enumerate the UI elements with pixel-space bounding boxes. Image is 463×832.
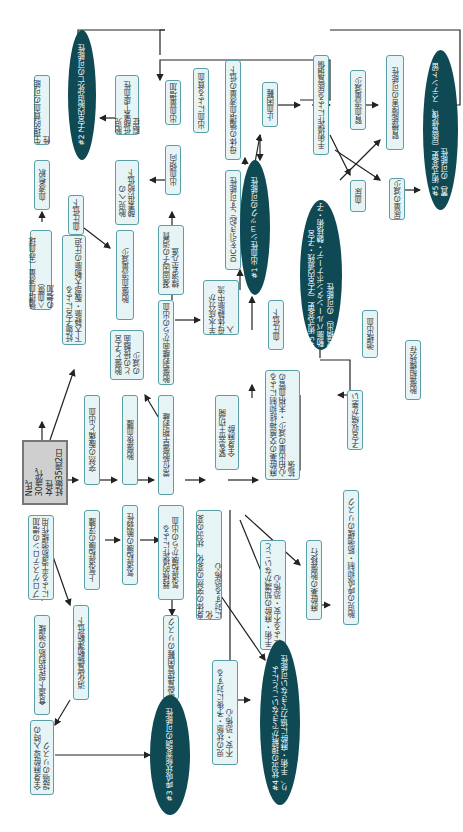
box-bleeding-tendency: 出血傾向 bbox=[165, 145, 181, 195]
patient-info-box: N氏、 30歳代、 女性 妊娠35週2日 bbox=[22, 440, 68, 505]
box-dic-possibility: DICを引き起こす可能性 bbox=[225, 170, 241, 270]
box-blood-loss-increase: 出血量増加 bbox=[165, 80, 181, 125]
box-airway-mucosa-fragility: 気道粘膜の脆弱性 bbox=[122, 505, 138, 585]
box-fetal-oxygen-decrease: 胎児への 酸素供給低下 bbox=[115, 160, 139, 225]
box-mechanical-airway-bleeding: 器械的操作による 気道粘膜からの出血 bbox=[158, 505, 184, 600]
box-fetal-hie: 胎児 低酸素─虚血性脳症 bbox=[115, 75, 139, 135]
box-placental-contact-decrease: 胎盤と子宮 との接触面 の減少 bbox=[110, 330, 144, 380]
box-hypotension-2: 血圧低下 bbox=[268, 300, 284, 350]
box-circulating-blood-volume: 循環血液量（赤血球＜血漿） の増加 bbox=[30, 230, 52, 310]
box-anesthesia-sympathetic-inhibition: 麻酔薬の交感神経抑制による 心拍出量の減少・末梢血管の 拡張 bbox=[265, 370, 300, 480]
box-anemia-from-bleeding: 出血による貧血 bbox=[193, 68, 209, 133]
diagnosis-fetal-death: #2 子宮内胎児死亡の可能性 bbox=[68, 30, 96, 160]
box-retroplacental-hematoma: 胎盤後血腫 bbox=[122, 395, 138, 485]
diagnosis-hemorrhagic-shock: #1 出血性ショックの可能性 bbox=[240, 160, 270, 295]
diagnosis-surgery-change-uterine: #5 術式変更（子宮内遺残・子宮 動脈バルーンタンポナーデ・髄核術・子 宮摘出）… bbox=[300, 200, 342, 350]
diagnosis-respiratory-change: #3 呼吸状態変調の可能性 bbox=[150, 695, 190, 815]
box-anesthesia-placental-transfer: 麻酔薬の胎盤移行 bbox=[306, 540, 322, 620]
box-aspiration-risk: 全身麻酔導入時の 誤嚥のリスク bbox=[30, 720, 54, 795]
box-coagulation-consumption: 凝固因子の消費 線溶系亢進 bbox=[158, 225, 184, 295]
box-atonic-bleeding: 弛緩出血 bbox=[362, 310, 378, 358]
nursing-correlation-diagram: N氏、 30歳代、 女性 妊娠35週2日 循環血液量（赤血球＜血漿） の増加 血… bbox=[0, 0, 463, 832]
box-urine-output-decrease: 尿量の減少 bbox=[389, 178, 405, 220]
box-placental-blood-flow-decrease: 胎盤血流量減少 bbox=[116, 230, 134, 320]
box-hemodilution: 血液希釈 bbox=[34, 160, 50, 210]
box-emergency-cesarean: 緊急帝王切開 全身麻酔 bbox=[215, 395, 239, 470]
box-hypotension-1: 血圧低下 bbox=[68, 195, 84, 235]
box-bleeding-from-placental-surface: 胎盤剥離面からの出血 bbox=[158, 300, 174, 385]
box-physiologic-anemia: 生理的貧血の可能性 bbox=[34, 75, 50, 145]
box-hemostasis-difficulty: 止血困難 bbox=[262, 82, 278, 127]
box-ureter-injury: 手術操作による尿管損傷 bbox=[313, 55, 329, 155]
box-vena-cava-compression: 妊娠子宮による 下大静脈・腹部大動脈の圧迫 bbox=[62, 235, 86, 345]
diagnosis-surgery-change-ureter: #5 術式変更（尿管修復、ステント留 置）の可能性 bbox=[423, 50, 458, 210]
patient-info-text: N氏、 30歳代、 女性 妊娠35週2日 bbox=[25, 449, 65, 496]
box-poor-uterine-contraction: 子宮収縮が悪い bbox=[347, 390, 363, 450]
box-sudden-pain-bleeding: 突然の腹痛と出血 bbox=[84, 395, 100, 485]
box-gi-motility-decrease: 消化管蠕動運動低下 bbox=[73, 605, 89, 700]
box-placental-abruption: 常位胎盤早期剥離 bbox=[158, 395, 174, 495]
diagnosis-cannot-cooperate: #4 状況の理解ができないことによ り、手術・麻酔に協力できない可能性 bbox=[260, 640, 300, 805]
box-renal-blood-flow-decrease: 腎血流量減少 bbox=[350, 70, 366, 130]
box-maternal-blood-volume-decrease: 母体の循環血液量の低下 bbox=[225, 60, 241, 160]
box-progesterone-increase: プロゲステロンの増加 による平滑筋弛緩作用 bbox=[28, 515, 54, 600]
box-anxiety-fetal-prognosis: 児の状態・予後に対する 不安・恐怖心 bbox=[212, 660, 238, 765]
box-upper-airway-edema: 上気道粘膜の浮腫 bbox=[84, 510, 100, 590]
box-les-relaxation: 食道下部括約筋の弛緩 bbox=[34, 615, 50, 715]
box-difficult-intubation-risk: 気管挿管困難のリスク bbox=[163, 615, 179, 700]
box-amniotic-fluid-embolism: 羊水成分が 母体静脈中流入 bbox=[203, 280, 239, 335]
box-anxiety-surgery-knowledge: 手術・麻酔の知識がないこと による不安・恐怖心 bbox=[260, 540, 286, 650]
box-fear-of-sudden-change: 身体の突然の変化、状況の変化 に対する恐怖心 bbox=[196, 510, 222, 620]
box-retained-placenta: 胎盤組織残存 bbox=[405, 340, 421, 400]
box-fetal-respiratory-depression-risk: 胎児の呼吸抑制・筋弛緩のリスク bbox=[343, 490, 359, 625]
box-hematuria: 血尿 bbox=[350, 180, 366, 212]
box-renal-dysfunction: 腎機能障害の可能性 bbox=[386, 55, 404, 150]
